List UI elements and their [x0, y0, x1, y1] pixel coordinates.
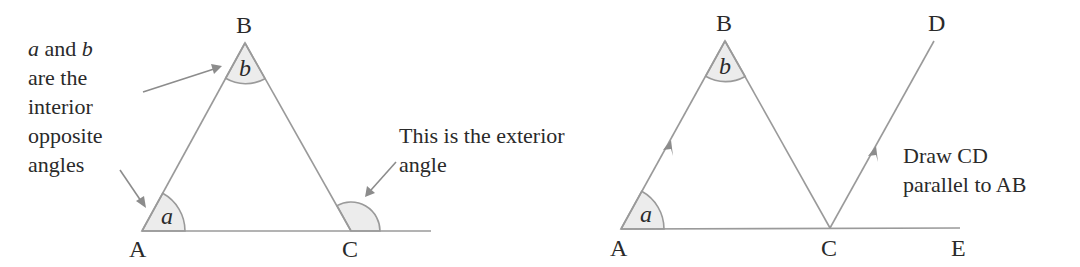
- vertex-label-a-right: A: [610, 235, 628, 261]
- diagram-canvas: A B C a b a and b are the interior oppos…: [0, 0, 1080, 267]
- exterior-note-line-2: angle: [399, 152, 447, 177]
- right-figure: A B C D E a b Draw CD parallel to AB: [610, 10, 1026, 261]
- side-bc: [245, 43, 351, 231]
- parallel-mark-cd-icon: [868, 146, 878, 162]
- instruction-line-1: Draw CD: [903, 143, 988, 168]
- angle-letter-a-right: a: [640, 201, 652, 227]
- vertex-label-c-right: C: [821, 235, 837, 261]
- note-line-5: angles: [28, 152, 84, 177]
- angle-letter-a: a: [161, 203, 173, 229]
- pointer-arrow-to-a: [120, 170, 146, 208]
- line-cd: [830, 41, 934, 228]
- side-ab-right: [621, 41, 725, 229]
- vertex-label-c: C: [342, 236, 358, 262]
- pointer-arrow-to-exterior: [365, 162, 396, 197]
- base-ace: [621, 228, 960, 229]
- side-bc-right: [725, 41, 830, 228]
- note-line-1: a and b: [28, 36, 93, 61]
- vertex-label-d: D: [928, 10, 945, 36]
- angle-letter-b-right: b: [719, 53, 731, 79]
- vertex-label-b-right: B: [716, 10, 732, 36]
- vertex-label-e: E: [951, 235, 966, 261]
- left-figure: A B C a b a and b are the interior oppos…: [28, 12, 565, 262]
- pointer-arrow-to-b: [143, 64, 222, 92]
- vertex-label-b: B: [236, 12, 252, 38]
- note-line-4: opposite: [28, 123, 103, 148]
- note-line-3: interior: [28, 94, 93, 119]
- note-line-2: are the: [28, 65, 87, 90]
- angle-letter-b: b: [239, 55, 251, 81]
- side-ab: [142, 43, 245, 231]
- instruction-line-2: parallel to AB: [903, 172, 1026, 197]
- vertex-label-a: A: [129, 236, 147, 262]
- exterior-note-line-1: This is the exterior: [399, 123, 565, 148]
